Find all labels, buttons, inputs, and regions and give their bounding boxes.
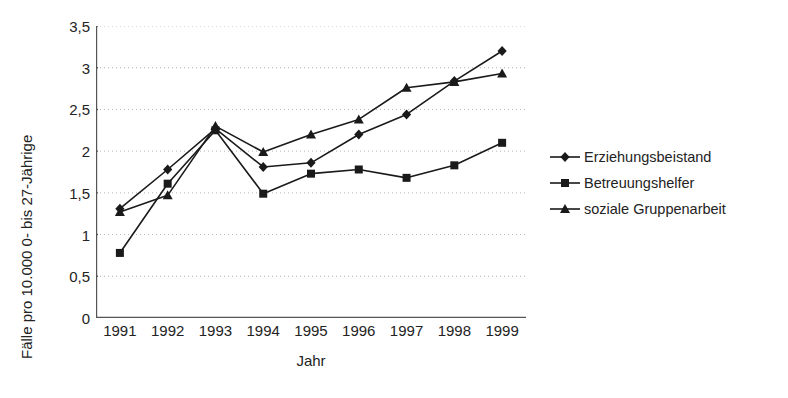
data-point-diamond [560,152,569,162]
y-tick-label: 1 [40,226,90,243]
data-point-square [307,170,315,178]
data-point-square [450,161,458,169]
line-chart-figure: Fälle pro 10.000 0- bis 27-Jährige 00,51… [0,0,788,398]
legend-label: Betreuungshelfer [582,175,694,191]
data-point-square [259,190,267,198]
data-point-square [355,165,363,173]
y-tick-label: 1,5 [40,184,90,201]
x-tick-label: 1999 [472,322,532,339]
plot-area [96,26,526,318]
chart-canvas [96,26,526,318]
data-point-triangle [497,69,507,78]
legend-marker-triangle-icon [548,199,582,219]
data-point-triangle [354,114,364,123]
data-point-diamond [306,158,315,168]
y-tick-label: 3 [40,59,90,76]
y-tick-label: 2 [40,143,90,160]
x-axis-title: Jahr [96,352,526,369]
data-point-square [403,174,411,182]
data-point-square [164,180,172,188]
data-point-square [561,179,569,187]
y-tick-label: 2,5 [40,101,90,118]
data-point-triangle [163,190,173,199]
y-tick-label: 0 [40,310,90,327]
data-point-diamond [354,129,363,139]
data-point-triangle [210,121,220,130]
data-point-diamond [498,46,507,56]
y-tick-label: 0,5 [40,268,90,285]
data-point-diamond [402,109,411,119]
legend-item[interactable]: soziale Gruppenarbeit [548,196,786,222]
legend-marker-square-icon [548,173,582,193]
data-point-square [498,139,506,147]
legend-marker-diamond-icon [548,147,582,167]
y-tick-label: 3,5 [40,18,90,35]
legend-label: Erziehungsbeistand [582,149,711,165]
legend-item[interactable]: Betreuungshelfer [548,170,786,196]
y-axis-tick-labels: 00,511,522,533,5 [40,26,90,318]
chart-legend: ErziehungsbeistandBetreuungshelfersozial… [548,144,786,222]
legend-item[interactable]: Erziehungsbeistand [548,144,786,170]
legend-label: soziale Gruppenarbeit [582,201,726,217]
x-axis-tick-labels: 199119921993199419951996199719981999 [96,322,526,346]
data-point-square [116,249,124,257]
series-line-triangle [120,74,502,212]
